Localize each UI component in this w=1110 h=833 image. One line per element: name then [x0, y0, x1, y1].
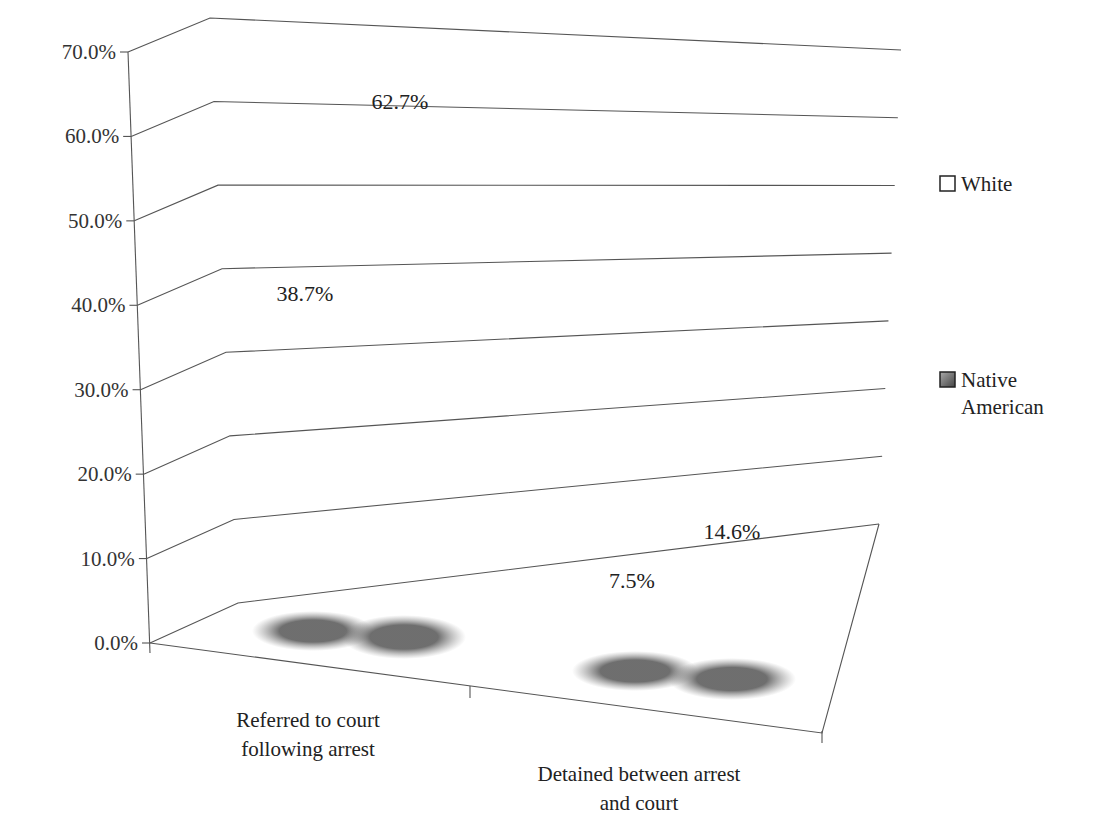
- legend-label: Native: [961, 368, 1017, 392]
- data-label: 14.6%: [704, 519, 761, 544]
- category-label: and court: [600, 791, 679, 815]
- y-tick-label: 40.0%: [71, 293, 125, 317]
- cone-chart: 0.0%10.0%20.0%30.0%40.0%50.0%60.0%70.0% …: [0, 0, 1110, 833]
- data-label: 7.5%: [609, 568, 655, 593]
- gridline: [144, 389, 886, 475]
- category-label: Referred to court: [236, 708, 380, 732]
- chart-labels: 38.7%62.7%7.5%14.6%Referred to courtfoll…: [236, 89, 760, 815]
- legend-swatch-white: [940, 176, 955, 191]
- gridline: [131, 102, 898, 137]
- y-tick-label: 10.0%: [81, 547, 135, 571]
- y-tick-label: 70.0%: [62, 40, 116, 64]
- data-label: 38.7%: [277, 281, 334, 306]
- gridline: [137, 253, 891, 305]
- data-label: 62.7%: [372, 89, 429, 114]
- chart-cones: [252, 611, 796, 700]
- y-tick-label: 50.0%: [68, 209, 122, 233]
- legend-label: American: [961, 395, 1044, 419]
- chart-legend: WhiteNativeAmerican: [940, 172, 1044, 419]
- y-tick-label: 0.0%: [94, 631, 138, 655]
- gridline: [128, 18, 901, 52]
- legend-label: White: [961, 172, 1012, 196]
- gridline: [141, 321, 889, 390]
- y-tick-label: 60.0%: [65, 124, 119, 148]
- y-tick-label: 30.0%: [74, 378, 128, 402]
- cone-shadow: [668, 658, 796, 700]
- legend-swatch-native-american: [940, 372, 955, 387]
- chart-axes: 0.0%10.0%20.0%30.0%40.0%50.0%60.0%70.0%: [62, 18, 901, 743]
- category-label: following arrest: [241, 737, 375, 761]
- gridline: [147, 456, 882, 558]
- category-label: Detained between arrest: [538, 762, 741, 786]
- cone-shadow: [342, 615, 466, 659]
- y-tick-label: 20.0%: [77, 462, 131, 486]
- gridline: [134, 185, 894, 221]
